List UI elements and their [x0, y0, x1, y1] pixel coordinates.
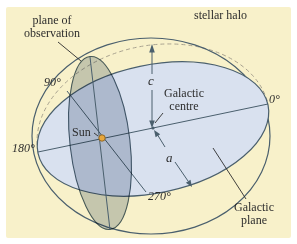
- label-galactic-plane: Galactic plane: [234, 201, 274, 227]
- label-axis-c: c: [148, 74, 154, 88]
- label-galactic-plane-line2: plane: [234, 214, 274, 227]
- label-plane-of-observation-line2: observation: [24, 27, 80, 40]
- label-galactic-centre-line2: centre: [164, 100, 204, 113]
- label-270-degrees: 270°: [148, 190, 171, 203]
- label-plane-of-observation: plane of observation: [24, 14, 80, 40]
- label-axis-a: a: [166, 151, 173, 165]
- galaxy-diagram: plane of observation stellar halo 90° 0°…: [0, 0, 297, 244]
- label-180-degrees: 180°: [12, 142, 35, 155]
- label-stellar-halo: stellar halo: [194, 9, 247, 22]
- label-sun: Sun: [72, 126, 91, 139]
- label-galactic-centre: Galactic centre: [164, 87, 204, 113]
- sun-dot: [99, 135, 105, 141]
- galactic-centre-dot: [151, 126, 154, 129]
- label-90-degrees: 90°: [44, 76, 61, 89]
- label-0-degrees: 0°: [269, 93, 280, 106]
